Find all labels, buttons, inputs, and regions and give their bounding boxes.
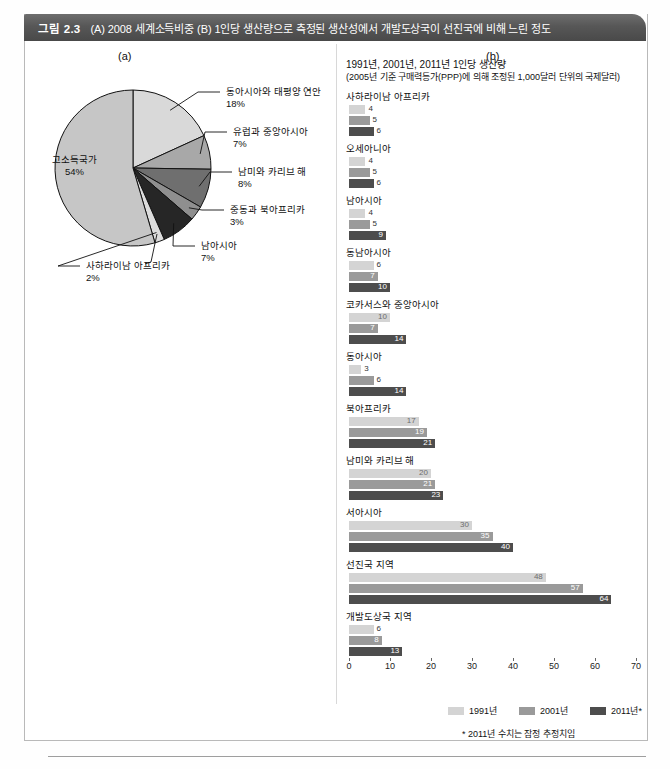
bar-value-label: 6 xyxy=(377,375,381,385)
bar-group: 사하라이남 아프리카456 xyxy=(344,89,644,136)
x-tick-label: 70 xyxy=(631,661,641,671)
bottom-rule xyxy=(48,756,646,757)
pie-slice-label: 남아시아7% xyxy=(201,240,237,263)
x-axis: 010203040506070 xyxy=(349,658,644,674)
bar: 10 xyxy=(349,283,390,292)
bar-row: 4 xyxy=(344,157,644,166)
bar-group-label: 오세아니아 xyxy=(346,141,644,155)
bar-row: 7 xyxy=(344,272,644,281)
pie-slice-label: 유럽과 중앙아시아7% xyxy=(233,126,308,149)
bar: 64 xyxy=(349,595,611,604)
x-tick-label: 10 xyxy=(385,661,395,671)
bar-group: 오세아니아456 xyxy=(344,141,644,188)
pie-slice-name: 남아시아 xyxy=(201,240,237,251)
bar-value-label: 21 xyxy=(423,438,432,448)
bar-value-label: 64 xyxy=(599,594,608,604)
bar-value-label: 40 xyxy=(501,542,510,552)
bar-row: 57 xyxy=(344,584,644,593)
pie-chart: 동아시아와 태평양 연안18%유럽과 중앙아시아7%남미와 카리브 해8%중동과… xyxy=(30,62,330,312)
bar-row: 5 xyxy=(344,168,644,177)
figure-page: 그림 2.3 (A) 2008 세계소득비중 (B) 1인당 생산량으로 측정된… xyxy=(0,0,670,769)
bar-value-label: 6 xyxy=(377,126,381,136)
bar-group-label: 북아프리카 xyxy=(346,401,644,415)
pie-slice-value: 7% xyxy=(201,252,237,264)
bar-row: 40 xyxy=(344,543,644,552)
pie-slice-name: 유럽과 중앙아시아 xyxy=(233,126,308,137)
bar-row: 10 xyxy=(344,283,644,292)
bar-value-label: 30 xyxy=(460,520,469,530)
pie-slice-label: 고소득국가54% xyxy=(52,154,97,177)
pie-slice-value: 8% xyxy=(238,178,306,190)
pie-slice-label: 남미와 카리브 해8% xyxy=(238,166,306,189)
bar-group-label: 동남아시아 xyxy=(346,245,644,259)
bar: 30 xyxy=(349,521,472,530)
bar-group: 동아시아3614 xyxy=(344,349,644,396)
pie-slice-label: 사하라이남 아프리카2% xyxy=(86,260,170,283)
bar-value-label: 21 xyxy=(423,479,432,489)
pie-slice-label: 동아시아와 태평양 연안18% xyxy=(226,86,321,109)
footnote: * 2011년 수치는 잠정 추정치임 xyxy=(462,727,575,740)
bar: 14 xyxy=(349,335,406,344)
bar-chart-title: 1991년, 2001년, 2011년 1인당 생산량 (2005년 기준 구매… xyxy=(346,58,644,84)
bar-group-label: 선진국 지역 xyxy=(346,557,644,571)
pie-slice-value: 7% xyxy=(233,138,308,150)
figure-title: (A) 2008 세계소득비중 (B) 1인당 생산량으로 측정된 생산성에서 … xyxy=(90,20,551,36)
bar: 14 xyxy=(349,387,406,396)
bar: 9 xyxy=(349,231,386,240)
bar-group: 남미와 카리브 해202123 xyxy=(344,453,644,500)
bar-row: 6 xyxy=(344,625,644,634)
bar-value-label: 35 xyxy=(481,531,490,541)
bar: 6 xyxy=(349,376,374,385)
bar: 20 xyxy=(349,469,431,478)
legend-label: 1991년 xyxy=(469,704,497,717)
bar-row: 64 xyxy=(344,595,644,604)
bar-group-label: 서아시아 xyxy=(346,505,644,519)
bar: 4 xyxy=(349,157,365,166)
bar-group-label: 사하라이남 아프리카 xyxy=(346,89,644,103)
bar: 10 xyxy=(349,313,390,322)
figure-header-bar: 그림 2.3 (A) 2008 세계소득비중 (B) 1인당 생산량으로 측정된… xyxy=(24,14,646,41)
bar: 21 xyxy=(349,480,435,489)
bar-row: 30 xyxy=(344,521,644,530)
pie-slice-name: 동아시아와 태평양 연안 xyxy=(226,86,321,97)
bar: 6 xyxy=(349,179,374,188)
bar: 5 xyxy=(349,220,370,229)
bar-row: 9 xyxy=(344,231,644,240)
bar-row: 48 xyxy=(344,573,644,582)
bar-group: 선진국 지역485764 xyxy=(344,557,644,604)
bar: 7 xyxy=(349,324,378,333)
bar-row: 35 xyxy=(344,532,644,541)
bar-value-label: 10 xyxy=(378,312,387,322)
bar: 19 xyxy=(349,428,427,437)
x-tick-label: 20 xyxy=(426,661,436,671)
bar: 6 xyxy=(349,261,374,270)
chart-legend: 1991년2001년2011년* xyxy=(448,704,642,717)
bar-row: 6 xyxy=(344,127,644,136)
bar-row: 6 xyxy=(344,376,644,385)
bar-value-label: 4 xyxy=(368,104,372,114)
bar-group: 코카서스와 중앙아시아10714 xyxy=(344,297,644,344)
bar-group-label: 코카서스와 중앙아시아 xyxy=(346,297,644,311)
bar-value-label: 14 xyxy=(394,334,403,344)
bar-row: 6 xyxy=(344,261,644,270)
bar-value-label: 19 xyxy=(415,427,424,437)
bar-value-label: 4 xyxy=(368,156,372,166)
bar: 48 xyxy=(349,573,546,582)
bar-row: 7 xyxy=(344,324,644,333)
bar-chart: 1991년, 2001년, 2011년 1인당 생산량 (2005년 기준 구매… xyxy=(344,58,644,718)
pie-slice-value: 18% xyxy=(226,98,321,110)
bar-value-label: 13 xyxy=(390,646,399,656)
x-tick-label: 50 xyxy=(549,661,559,671)
bar-value-label: 6 xyxy=(377,178,381,188)
bar-value-label: 14 xyxy=(394,386,403,396)
pie-slice-name: 사하라이남 아프리카 xyxy=(86,260,170,271)
legend-item: 1991년 xyxy=(448,704,497,717)
bar: 4 xyxy=(349,105,365,114)
legend-label: 2001년 xyxy=(540,704,568,717)
bar-group: 남아시아459 xyxy=(344,193,644,240)
bar: 6 xyxy=(349,127,374,136)
legend-item: 2001년 xyxy=(519,704,568,717)
bar-value-label: 7 xyxy=(370,271,374,281)
pie-slice-name: 중동과 북아프리카 xyxy=(230,204,305,215)
bar-group-label: 개발도상국 지역 xyxy=(346,609,644,623)
